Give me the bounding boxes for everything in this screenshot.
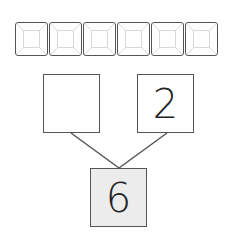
right-part-box: 2 bbox=[137, 74, 194, 133]
left-part-box[interactable] bbox=[43, 74, 100, 133]
whole-box: 6 bbox=[90, 168, 147, 227]
